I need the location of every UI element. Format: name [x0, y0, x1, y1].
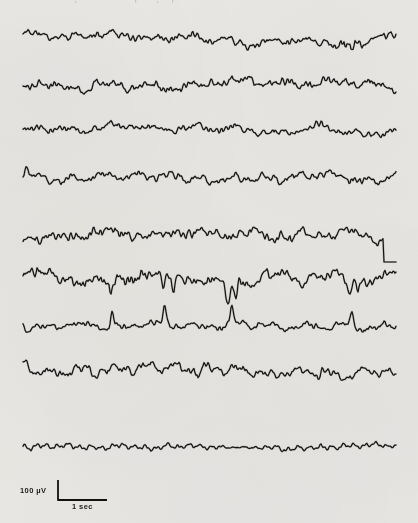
- calibration-time-label: 1 sec: [72, 502, 93, 511]
- calibration-amplitude-label: 100 µV: [20, 486, 46, 495]
- eeg-trace-canvas: [0, 0, 418, 523]
- eeg-recording-figure: 100 µV 1 sec: [0, 0, 418, 523]
